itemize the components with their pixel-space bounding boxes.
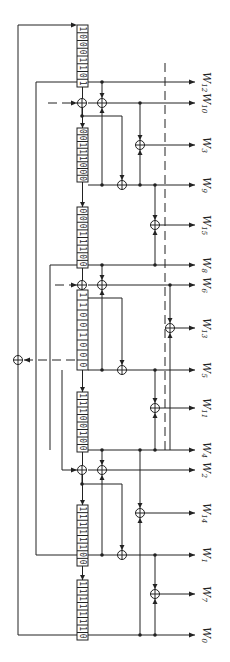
output-label: W8 bbox=[200, 257, 214, 273]
arrowhead bbox=[189, 468, 195, 473]
output-W1: W1 bbox=[200, 547, 214, 563]
register-bit: 0 bbox=[78, 438, 87, 443]
xor-gate bbox=[166, 324, 175, 333]
arrowhead bbox=[189, 511, 195, 516]
junction-dot bbox=[153, 553, 157, 557]
arrowhead bbox=[189, 283, 195, 288]
arrowhead bbox=[138, 518, 143, 523]
register-bit: 0 bbox=[78, 34, 87, 39]
junction-dot bbox=[100, 80, 104, 84]
register-bit: 0 bbox=[78, 423, 87, 428]
arrowhead bbox=[189, 368, 195, 373]
register-bit: 0 bbox=[78, 216, 87, 221]
junction-dot bbox=[100, 263, 104, 267]
output-W15: W15 bbox=[200, 215, 214, 236]
xor-gate bbox=[118, 551, 127, 560]
arrowhead bbox=[168, 333, 173, 338]
arrowhead bbox=[100, 460, 105, 465]
register-bit: 0 bbox=[78, 50, 87, 55]
register-bit: 1 bbox=[78, 545, 87, 550]
register-bit: 1 bbox=[78, 589, 87, 594]
register-bit: 1 bbox=[78, 522, 87, 527]
xor-gate bbox=[151, 404, 160, 413]
register-bit: 1 bbox=[78, 596, 87, 601]
arrowhead bbox=[71, 283, 77, 288]
arrowhead bbox=[189, 80, 195, 85]
register-bit: 0 bbox=[78, 552, 87, 557]
arrowhead bbox=[80, 387, 85, 392]
register-bit: 0 bbox=[78, 262, 87, 267]
register-bit: 0 bbox=[78, 176, 87, 181]
arrowhead bbox=[80, 123, 85, 128]
register-bit: 1 bbox=[78, 247, 87, 252]
arrowhead bbox=[189, 101, 195, 106]
arrowhead bbox=[100, 93, 105, 98]
register-bit: 0 bbox=[78, 42, 87, 47]
arrowhead bbox=[153, 398, 158, 403]
arrowhead bbox=[153, 413, 158, 418]
register-bit: 1 bbox=[78, 156, 87, 161]
register-bit: 1 bbox=[78, 65, 87, 70]
output-W3: W3 bbox=[200, 137, 214, 153]
output-label: W13 bbox=[200, 318, 214, 339]
register-bit: 1 bbox=[78, 393, 87, 398]
register-bit: 1 bbox=[78, 408, 87, 413]
register-bit: 0 bbox=[78, 73, 87, 78]
output-W12: W12 bbox=[200, 72, 214, 93]
output-W8: W8 bbox=[200, 257, 214, 273]
arrowhead bbox=[189, 633, 195, 638]
arrowhead bbox=[80, 202, 85, 207]
register-reg4: 11001000 bbox=[77, 290, 88, 370]
xor-gate bbox=[118, 181, 127, 190]
register-reg7: 11111110 bbox=[77, 580, 88, 640]
arrowhead bbox=[189, 263, 195, 268]
xor-gate bbox=[98, 99, 107, 108]
arrowhead bbox=[168, 318, 173, 323]
xor-gate bbox=[78, 466, 87, 475]
arrowhead bbox=[138, 150, 143, 155]
register-bit: 0 bbox=[78, 323, 87, 328]
output-label: W1 bbox=[200, 547, 214, 563]
arrowhead bbox=[120, 545, 125, 550]
arrowhead bbox=[138, 135, 143, 140]
register-bit: 1 bbox=[78, 626, 87, 631]
arrowhead bbox=[153, 584, 158, 589]
register-bit: 0 bbox=[78, 446, 87, 451]
junction-dot bbox=[153, 183, 157, 187]
arrowhead bbox=[189, 592, 195, 597]
register-bit: 0 bbox=[78, 363, 87, 368]
arrowhead bbox=[189, 223, 195, 228]
junction-dot bbox=[153, 448, 157, 452]
arrowhead bbox=[80, 575, 85, 580]
register-bit: 1 bbox=[78, 81, 87, 86]
output-label: W15 bbox=[200, 215, 214, 236]
register-bit: 1 bbox=[78, 431, 87, 436]
register-reg3: 00011100 bbox=[77, 207, 88, 268]
arrowhead bbox=[189, 183, 195, 188]
xor-gate bbox=[118, 366, 127, 375]
register-bit: 1 bbox=[78, 303, 87, 308]
register-bit: 1 bbox=[78, 581, 87, 586]
arrowhead bbox=[189, 143, 195, 148]
output-label: W5 bbox=[200, 362, 214, 378]
register-bit: 1 bbox=[78, 149, 87, 154]
arrowhead bbox=[80, 500, 85, 505]
register-bit: 1 bbox=[78, 619, 87, 624]
junction-dot bbox=[100, 183, 104, 187]
xor-gate bbox=[151, 590, 160, 599]
xor-gate bbox=[136, 141, 145, 150]
register-reg6: 11111100 bbox=[77, 505, 88, 566]
xor-gates bbox=[14, 99, 175, 599]
output-W13: W13 bbox=[200, 318, 214, 339]
junction-dot bbox=[153, 263, 157, 267]
arrowhead bbox=[120, 360, 125, 365]
register-bit: 0 bbox=[78, 353, 87, 358]
junction-dot bbox=[138, 448, 142, 452]
junction-dot bbox=[100, 448, 104, 452]
output-W14: W14 bbox=[200, 503, 214, 523]
arrowhead bbox=[189, 406, 195, 411]
junction-dot bbox=[153, 633, 157, 637]
xor-gate bbox=[78, 281, 87, 290]
output-W11: W11 bbox=[200, 398, 214, 418]
register-bit: 0 bbox=[78, 136, 87, 141]
